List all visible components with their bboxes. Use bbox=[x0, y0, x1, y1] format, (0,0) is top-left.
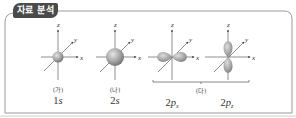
orbital-name-1s: 1s bbox=[38, 95, 78, 106]
svg-text:z: z bbox=[170, 21, 174, 29]
orbital-name-2px: 2px bbox=[152, 97, 192, 109]
svg-text:x: x bbox=[195, 54, 200, 62]
sphere-small bbox=[53, 52, 64, 63]
svg-text:z: z bbox=[113, 21, 117, 29]
svg-text:z: z bbox=[56, 21, 60, 29]
svg-text:x: x bbox=[137, 54, 142, 62]
svg-text:y: y bbox=[188, 36, 193, 44]
sphere-large bbox=[106, 48, 124, 66]
svg-text:y: y bbox=[244, 36, 249, 44]
orbital-1s-diagram: z y x bbox=[41, 21, 84, 80]
group-tag-da: (다) bbox=[186, 86, 216, 95]
svg-text:x: x bbox=[251, 54, 256, 62]
orbital-2px-diagram: z y x bbox=[148, 21, 200, 80]
orbital-2s-diagram: z y x bbox=[96, 21, 142, 80]
lobe-negative-z bbox=[224, 57, 233, 73]
svg-text:y: y bbox=[130, 36, 135, 44]
orbital-name-2pz: 2pz bbox=[207, 97, 247, 109]
svg-text:z: z bbox=[226, 21, 230, 29]
orbital-name-2s: 2s bbox=[95, 95, 135, 106]
svg-text:y: y bbox=[73, 36, 78, 44]
orbital-tag-na: (나) bbox=[100, 85, 130, 94]
orbital-tag-ga: (가) bbox=[43, 85, 73, 94]
orbital-2pz-diagram: z y x bbox=[205, 21, 256, 80]
data-analysis-badge: 자료 분석 bbox=[13, 3, 58, 18]
lobe-positive-x bbox=[172, 52, 187, 62]
svg-text:x: x bbox=[79, 54, 84, 62]
group-bracket bbox=[153, 80, 249, 84]
